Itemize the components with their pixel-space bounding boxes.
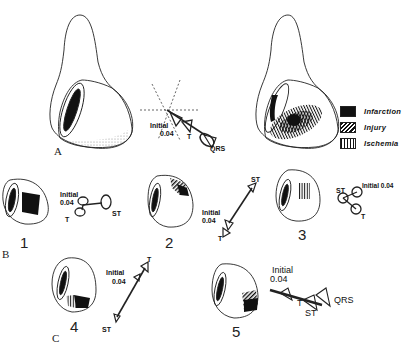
label-initial-2: Initial <box>202 209 220 216</box>
label-initial-value-A: 0.04 <box>160 130 174 137</box>
label-st-2: ST <box>251 176 260 183</box>
label-st-3: ST <box>336 187 345 194</box>
label-initial-A: Initial <box>150 122 168 129</box>
label-initial-4: Initial <box>106 269 124 276</box>
heart-infarcted <box>256 15 339 148</box>
heart-cone-1 <box>3 179 48 224</box>
label-t-5: T <box>297 300 303 307</box>
label-t-1: T <box>65 216 69 223</box>
label-t-2: T <box>218 235 222 242</box>
panel-letter-A: A <box>54 145 62 157</box>
label-initial-value-4: 0.04 <box>112 278 126 285</box>
label-initial-3: Initial 0.04 <box>362 182 393 189</box>
infarction-swatch <box>340 106 356 117</box>
label-initial-value-2: 0.04 <box>202 217 216 224</box>
legend-item-ischemia: Ischemia <box>340 135 401 151</box>
vector-diagram-1 <box>75 195 111 216</box>
label-initial-value-1: 0.04 <box>60 199 74 206</box>
sub-panel-number-5: 5 <box>232 323 240 340</box>
heart-cone-4 <box>52 258 96 312</box>
injury-swatch <box>340 122 356 133</box>
label-st-4: ST <box>102 326 111 333</box>
sub-panel-number-1: 1 <box>20 234 28 251</box>
heart-cone-3 <box>276 170 320 221</box>
legend-item-injury: Injury <box>340 119 401 135</box>
label-t-4: T <box>147 256 151 263</box>
label-st-5: ST <box>305 310 317 317</box>
legend-item-infarction: Infarction <box>340 103 401 119</box>
legend: Infarction Injury Ischemia <box>340 103 401 151</box>
label-initial-value-5: 0.04 <box>270 276 288 283</box>
legend-label: Ischemia <box>364 139 399 148</box>
label-st-1: ST <box>112 210 121 217</box>
heart-cone-5 <box>212 264 258 318</box>
sub-panel-number-4: 4 <box>70 318 78 335</box>
label-initial-5: Initial <box>272 267 293 274</box>
vector-diagram-2 <box>223 183 256 237</box>
sub-panel-number-3: 3 <box>298 226 306 243</box>
vector-diagram-A <box>140 80 216 149</box>
sub-panel-number-2: 2 <box>165 234 173 251</box>
panel-letter-B: B <box>2 248 9 260</box>
legend-label: Injury <box>364 123 386 132</box>
heart-normal <box>50 15 133 148</box>
label-initial-1: Initial <box>60 191 78 198</box>
panel-letter-C: C <box>52 332 59 344</box>
label-t-A: T <box>187 133 191 140</box>
ischemia-swatch <box>340 138 356 149</box>
label-t-3: T <box>361 213 365 220</box>
label-qrs-5: QRS <box>334 297 354 304</box>
label-qrs-A: QRS <box>210 145 225 152</box>
legend-label: Infarction <box>364 107 401 116</box>
heart-cone-2 <box>147 175 193 227</box>
